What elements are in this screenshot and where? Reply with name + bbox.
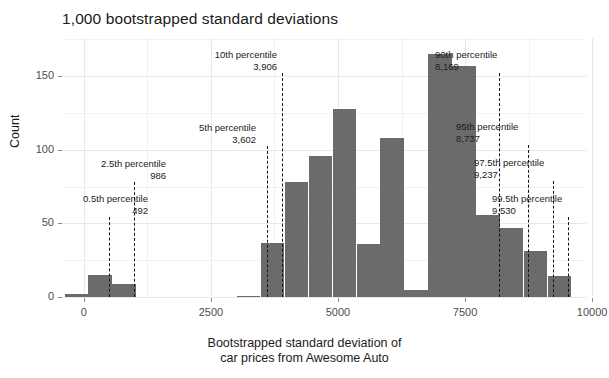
annotation-label: 0.5th percentile (83, 193, 148, 205)
chart-title: 1,000 bootstrapped standard deviations (62, 10, 338, 28)
histogram-bar (309, 156, 332, 297)
x-axis-title-line2: car prices from Awesome Auto (0, 351, 609, 366)
y-tick-mark (58, 297, 62, 298)
histogram-bar (500, 228, 523, 297)
annotation-p90: 90th percentile8,169 (435, 49, 497, 72)
annotation-label: 99.5th percentile (492, 193, 562, 205)
annotation-label: 10th percentile (215, 49, 277, 61)
histogram-bar (404, 290, 427, 297)
annotation-value: 8,169 (435, 61, 497, 73)
x-tick-label: 0 (81, 306, 87, 318)
x-axis-title: Bootstrapped standard deviation of car p… (0, 336, 609, 366)
annotation-label: 95th percentile (456, 121, 518, 133)
annotation-value: 3,906 (215, 61, 277, 73)
annotation-label: 97.5th percentile (474, 157, 544, 169)
x-tick-mark (592, 298, 593, 302)
y-tick-mark (58, 150, 62, 151)
annotation-p95: 95th percentile8,737 (456, 121, 518, 144)
histogram-bar (428, 54, 451, 297)
annotation-value: 3,602 (199, 134, 256, 146)
annotation-p0.5: 0.5th percentile492 (83, 193, 148, 216)
annotation-p99.5: 99.5th percentile9,530 (492, 193, 562, 216)
histogram-bar (476, 215, 499, 297)
annotation-value: 8,737 (456, 133, 518, 145)
annotation-label: 5th percentile (199, 122, 256, 134)
y-tick-mark (58, 223, 62, 224)
histogram-bar (357, 244, 380, 297)
histogram-bar (237, 296, 260, 297)
histogram-bar (380, 138, 403, 297)
percentile-line-p99.5 (568, 217, 569, 297)
y-tick-label: 0 (48, 290, 54, 302)
gridline-horizontal-minor (62, 39, 586, 40)
y-tick-label: 150 (36, 69, 54, 81)
gridline-horizontal-major (62, 297, 586, 298)
gridline-vertical-major (592, 38, 593, 297)
histogram-bar (285, 182, 308, 297)
x-tick-mark (211, 298, 212, 302)
y-tick-label: 50 (42, 216, 54, 228)
percentile-line-p5 (267, 146, 268, 297)
histogram-bar (112, 284, 135, 297)
bootstrap-histogram-chart: 1,000 bootstrapped standard deviations 0… (0, 0, 609, 378)
histogram-bar (65, 294, 88, 297)
gridline-horizontal-major (62, 76, 586, 77)
annotation-value: 9,530 (492, 205, 562, 217)
percentile-line-p90 (499, 73, 500, 297)
x-tick-label: 7500 (453, 306, 477, 318)
x-tick-mark (84, 298, 85, 302)
annotation-label: 2.5th percentile (101, 158, 166, 170)
x-tick-label: 10000 (577, 306, 608, 318)
gridline-horizontal-major (62, 150, 586, 151)
annotation-value: 492 (83, 205, 148, 217)
annotation-value: 986 (101, 170, 166, 182)
histogram-bar (333, 109, 356, 297)
histogram-bar (452, 66, 475, 297)
x-tick-mark (465, 298, 466, 302)
annotation-p2.5: 2.5th percentile986 (101, 158, 166, 181)
gridline-horizontal-minor (62, 113, 586, 114)
annotation-p10: 10th percentile3,906 (215, 49, 277, 72)
annotation-value: 9,237 (474, 169, 544, 181)
x-tick-mark (338, 298, 339, 302)
y-tick-label: 100 (36, 143, 54, 155)
histogram-bar (261, 243, 284, 297)
x-tick-label: 5000 (326, 306, 350, 318)
x-axis-title-line1: Bootstrapped standard deviation of (0, 336, 609, 351)
x-tick-label: 2500 (199, 306, 223, 318)
y-axis-title: Count (8, 115, 22, 148)
percentile-line-p0.5 (109, 217, 110, 297)
y-tick-mark (58, 76, 62, 77)
annotation-label: 90th percentile (435, 49, 497, 61)
percentile-line-p10 (282, 73, 283, 297)
annotation-p5: 5th percentile3,602 (199, 122, 256, 145)
annotation-p97.5: 97.5th percentile9,237 (474, 157, 544, 180)
